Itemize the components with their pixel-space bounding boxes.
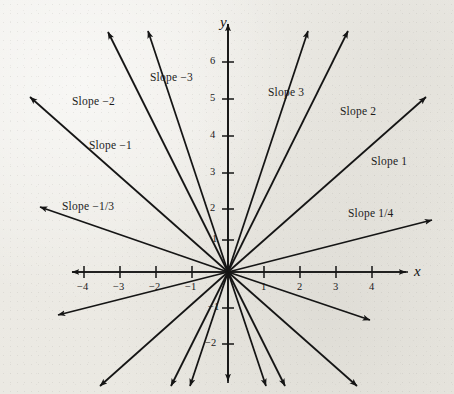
- annotation-slope-3: Slope 3: [268, 86, 304, 98]
- y-tick-label--1: −1: [208, 301, 219, 312]
- x-tick-label--3: −3: [113, 281, 124, 292]
- y-tick-label-1: 1: [212, 233, 217, 244]
- y-tick-label-6: 6: [210, 55, 215, 66]
- axes-group: [72, 24, 408, 383]
- x-tick-label-3: 3: [333, 281, 338, 292]
- annotation-slope-2: Slope 2: [340, 105, 376, 117]
- x-tick-label-2: 2: [297, 281, 302, 292]
- y-axis-label: y: [220, 14, 227, 31]
- slope-line-2-upper: [228, 31, 348, 272]
- slope-line-1-4-lower: [58, 272, 228, 315]
- annotation-slope-1: Slope 1: [371, 155, 407, 167]
- x-tick-label--1: −1: [185, 281, 196, 292]
- x-tick-label--2: −2: [149, 281, 160, 292]
- y-tick-label--2: −2: [205, 337, 216, 348]
- x-axis-label: x: [414, 263, 421, 280]
- x-tick-label--4: −4: [77, 281, 88, 292]
- slope-lines-figure: [0, 0, 454, 394]
- annotation-slope-neg1: Slope −1: [89, 139, 132, 151]
- y-tick-label-2: 2: [210, 202, 215, 213]
- y-tick-label-3: 3: [210, 166, 215, 177]
- x-tick-label-1: 1: [261, 281, 266, 292]
- slope-line-2-lower: [171, 272, 228, 386]
- annotation-slope-1-4: Slope 1/4: [348, 207, 394, 219]
- y-tick-label-5: 5: [210, 92, 215, 103]
- annotation-slope-neg3: Slope −3: [150, 71, 193, 83]
- annotation-slope-neg2: Slope −2: [72, 95, 115, 107]
- y-tick-label-4: 4: [210, 129, 215, 140]
- x-tick-label-4: 4: [369, 281, 374, 292]
- annotation-slope-neg1-3: Slope −1/3: [62, 200, 114, 212]
